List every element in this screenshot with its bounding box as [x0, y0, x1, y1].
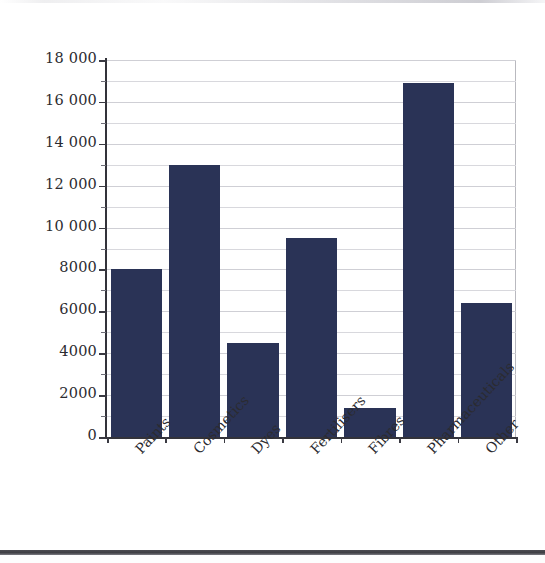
- bar-pharmaceuticals[interactable]: [403, 83, 454, 437]
- y-tick-4000: [99, 353, 106, 355]
- y-tick-minor-7000: [101, 290, 106, 291]
- y-tick-minor-3000: [101, 374, 106, 375]
- x-tick-7: [516, 437, 518, 443]
- y-tick-12000: [99, 186, 106, 188]
- bar-cosmetics[interactable]: [169, 165, 220, 437]
- y-tick-label-6000: 6000: [0, 301, 97, 317]
- y-tick-label-8000: 8000: [0, 259, 97, 275]
- y-tick-label-2000: 2000: [0, 385, 97, 401]
- y-tick-minor-9000: [101, 249, 106, 250]
- y-tick-label-14000: 14 000: [0, 134, 97, 150]
- scan-top-edge-artifact: [0, 0, 545, 3]
- y-tick-label-16000: 16 000: [0, 92, 97, 108]
- y-tick-10000: [99, 228, 106, 230]
- y-tick-0: [99, 437, 106, 439]
- plot-area: [107, 60, 516, 437]
- scan-bottom-gap: [0, 555, 545, 563]
- x-tick-1: [165, 437, 167, 443]
- bar-fertilisers[interactable]: [286, 238, 337, 437]
- y-tick-minor-17000: [101, 81, 106, 82]
- y-tick-6000: [99, 311, 106, 313]
- y-tick-minor-11000: [101, 207, 106, 208]
- y-tick-minor-13000: [101, 165, 106, 166]
- x-axis-line: [105, 437, 518, 439]
- y-tick-label-4000: 4000: [0, 343, 97, 359]
- x-tick-2: [224, 437, 226, 443]
- x-tick-0: [107, 437, 109, 443]
- bars-layer: [107, 60, 516, 437]
- bar-chart-figure: Number of people employed 02000400060008…: [0, 0, 545, 563]
- y-tick-16000: [99, 102, 106, 104]
- y-tick-2000: [99, 395, 106, 397]
- x-tick-3: [282, 437, 284, 443]
- y-tick-label-0: 0: [0, 427, 97, 443]
- scan-bottom-edge-artifact: [0, 550, 545, 555]
- y-tick-minor-5000: [101, 332, 106, 333]
- bar-paints[interactable]: [111, 269, 162, 437]
- y-tick-label-12000: 12 000: [0, 176, 97, 192]
- y-tick-14000: [99, 144, 106, 146]
- x-tick-5: [399, 437, 401, 443]
- y-tick-minor-1000: [101, 416, 106, 417]
- y-tick-label-10000: 10 000: [0, 218, 97, 234]
- y-tick-8000: [99, 269, 106, 271]
- y-tick-minor-15000: [101, 123, 106, 124]
- x-tick-6: [458, 437, 460, 443]
- x-tick-4: [341, 437, 343, 443]
- y-tick-18000: [99, 60, 106, 62]
- y-tick-label-18000: 18 000: [0, 50, 97, 66]
